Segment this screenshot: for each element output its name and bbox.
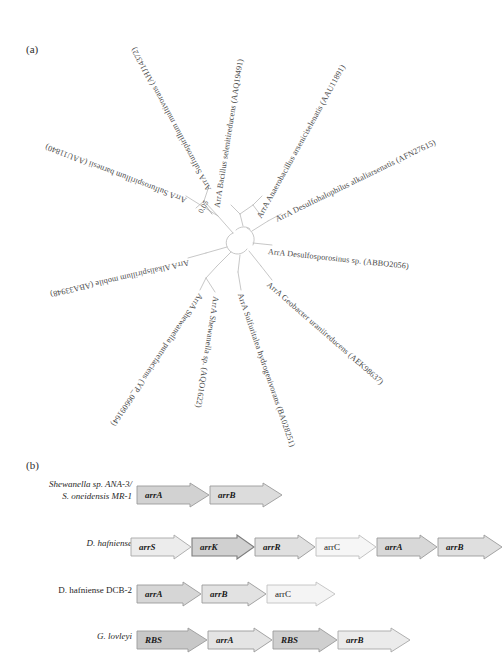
gene-arrow-group-shewanella-ana3: arrA arrB bbox=[136, 478, 282, 512]
panel-a-phylogenetic-tree: (a) bbox=[0, 0, 484, 440]
gene-arrow-arrA[interactable]: arrA bbox=[136, 581, 202, 607]
gene-arrow-arrC[interactable]: arrC bbox=[266, 581, 336, 607]
panel-b-gene-clusters: (b) Shewanella sp. ANA-3/ S. oneidensis … bbox=[0, 440, 484, 659]
gene-row-shewanella-ana3: Shewanella sp. ANA-3/ S. oneidensis MR-1… bbox=[0, 478, 484, 512]
gene-row-g-lovleyi: G. lovleyi RBS arrA RBS arrB bbox=[0, 623, 484, 657]
gene-arrow-rbs-2[interactable]: RBS bbox=[272, 627, 338, 653]
gene-row-label-shewanella-ana3: Shewanella sp. ANA-3/ S. oneidensis MR-1 bbox=[0, 479, 132, 502]
gene-arrow-arrK[interactable]: arrK bbox=[191, 534, 255, 560]
gene-arrow-group-g-lovleyi: RBS arrA RBS arrB bbox=[136, 623, 410, 657]
gene-arrow-arrA[interactable]: arrA bbox=[207, 627, 273, 653]
gene-row-label-d-hafniense: D. hafniense bbox=[0, 538, 132, 550]
gene-arrow-arrA[interactable]: arrA bbox=[376, 534, 438, 560]
organism-name: G. lovleyi bbox=[97, 631, 132, 641]
organism-name-line-2: S. oneidensis MR-1 bbox=[62, 491, 132, 501]
gene-row-d-hafniense-dcb2: D. hafniense DCB-2 arrA arrB arrC bbox=[0, 577, 484, 611]
gene-arrow-arrR[interactable]: arrR bbox=[254, 534, 316, 560]
gene-arrow-arrC[interactable]: arrC bbox=[315, 534, 377, 560]
panel-b-label: (b) bbox=[26, 459, 39, 471]
gene-arrow-rbs-1[interactable]: RBS bbox=[136, 627, 208, 653]
gene-arrow-arrA[interactable]: arrA bbox=[136, 482, 210, 508]
organism-name: D. hafniense DCB-2 bbox=[58, 585, 132, 595]
gene-arrow-arrB[interactable]: arrB bbox=[337, 627, 411, 653]
gene-row-label-d-hafniense-dcb2: D. hafniense DCB-2 bbox=[0, 585, 132, 597]
gene-arrow-arrB[interactable]: arrB bbox=[437, 534, 503, 560]
gene-arrow-group-d-hafniense-dcb2: arrA arrB arrC bbox=[136, 577, 335, 611]
gene-arrow-group-d-hafniense: arrS arrK arrR arrC arrA arrB bbox=[130, 530, 502, 564]
gene-arrow-arrS[interactable]: arrS bbox=[130, 534, 192, 560]
gene-arrow-arrB[interactable]: arrB bbox=[209, 482, 283, 508]
organism-name: D. hafniense bbox=[87, 538, 133, 548]
gene-arrow-arrB[interactable]: arrB bbox=[201, 581, 267, 607]
gene-row-label-g-lovleyi: G. lovleyi bbox=[0, 631, 132, 643]
gene-row-d-hafniense: D. hafniense arrS arrK arrR arrC arrA bbox=[0, 530, 484, 564]
organism-name-line-1: Shewanella sp. ANA-3/ bbox=[49, 479, 132, 489]
